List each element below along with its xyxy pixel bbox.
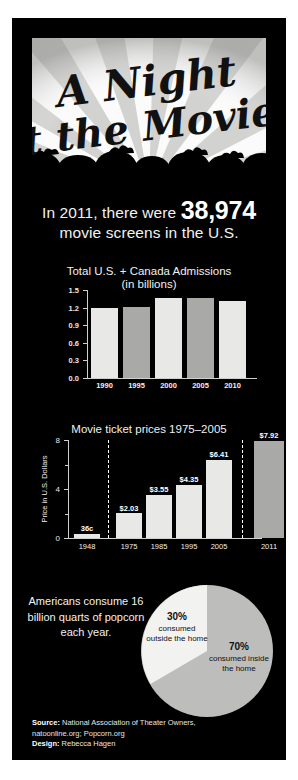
bar	[74, 534, 100, 538]
source-line2: natoonline.org; Popcorn.org	[32, 729, 125, 738]
design-text: Rebecca Hagen	[60, 739, 116, 748]
headline-suffix: movie screens in the U.S.	[59, 224, 238, 241]
pie-pct-outside: 30%	[167, 611, 187, 622]
bar	[254, 441, 284, 538]
chart1-ytick: 0.6	[69, 338, 79, 347]
bar	[155, 298, 182, 378]
chart2-ytick: 4	[56, 485, 60, 494]
chart1-ytick: 0.0	[69, 374, 79, 383]
chart2-y-axis-title: Price in U.S. Dollars	[40, 455, 49, 522]
bar	[206, 460, 232, 539]
bar-value: $2.03	[120, 504, 139, 513]
chart1-x-axis	[87, 378, 257, 379]
chart1-title: Total U.S. + Canada Admissions	[12, 264, 286, 278]
bar-value: $3.55	[150, 485, 169, 494]
headline: In 2011, there were 38,974 movie screens…	[12, 200, 286, 243]
bar	[123, 307, 150, 378]
bar-value: $6.41	[210, 450, 229, 459]
bar-value: $4.35	[180, 475, 199, 484]
admissions-bar-chart: 1.5 1.2 0.9 0.6 0.3 0.0 1990 1995 2000 2…	[12, 286, 286, 404]
bar	[146, 495, 172, 539]
chart2-ytick: 0	[56, 534, 60, 543]
ticket-price-bar-chart: Price in U.S. Dollars 8 4 0 36c $2.03 $3…	[12, 418, 286, 573]
bar	[91, 308, 118, 378]
chart1-plot	[87, 290, 250, 378]
chart1-xtick: 2005	[192, 381, 209, 390]
chart1-xtick: 1995	[128, 381, 145, 390]
chart1-ytick: 0.9	[69, 321, 79, 330]
headline-number: 38,974	[181, 196, 256, 224]
chart2-xtick: 1948	[79, 542, 96, 551]
pie-label-inside: 70% consumed inside the home	[208, 642, 270, 675]
bar	[176, 485, 202, 538]
chart2-divider	[108, 440, 109, 538]
chart2-xtick: 1985	[151, 542, 168, 551]
bar	[219, 301, 246, 379]
footer-credits: Source: National Association of Theater …	[32, 718, 272, 750]
popcorn-statement: Americans consume 16 billion quarts of p…	[26, 594, 146, 641]
chart2-xtick: 2005	[211, 542, 228, 551]
bar	[187, 298, 214, 378]
pie-desc-inside: consumed inside the home	[209, 654, 269, 674]
pie-label-outside: 30% consumed outside the home	[146, 612, 208, 645]
bar-value: 36c	[81, 524, 94, 533]
design-label: Design:	[32, 739, 60, 748]
bar-value: $7.92	[260, 431, 279, 440]
chart1-xtick: 2000	[160, 381, 177, 390]
chart1-ytick: 0.3	[69, 356, 79, 365]
source-text: National Association of Theater Owners,	[60, 718, 196, 727]
chart2-xtick: 1995	[181, 542, 198, 551]
chart1-ytick: 1.2	[69, 303, 79, 312]
audience-silhouettes	[32, 139, 266, 185]
chart2-divider	[242, 440, 243, 538]
bar	[116, 513, 142, 538]
chart2-xtick: 1975	[121, 542, 138, 551]
pie-pct-inside: 70%	[229, 641, 249, 652]
popcorn-pie-chart: 30% consumed outside the home 70% consum…	[140, 584, 274, 718]
chart2-x-axis	[68, 538, 262, 539]
chart2-ytick: 8	[56, 436, 60, 445]
infographic-poster: A Night at the Movies In 2011, there wer…	[12, 18, 286, 760]
chart1-xtick: 1990	[96, 381, 113, 390]
poster-header: A Night at the Movies	[32, 38, 266, 185]
chart2-xtick: 2011	[261, 542, 277, 551]
popcorn-section: Americans consume 16 billion quarts of p…	[12, 584, 286, 724]
chart1-ytick: 1.5	[69, 286, 79, 295]
headline-prefix: In 2011, there were	[42, 204, 181, 221]
pie-desc-outside: consumed outside the home	[146, 624, 207, 644]
chart1-xtick: 2010	[224, 381, 241, 390]
source-label: Source:	[32, 718, 60, 727]
